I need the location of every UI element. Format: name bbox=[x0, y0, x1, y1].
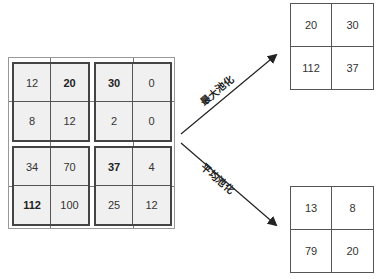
output-cell: 20 bbox=[291, 4, 332, 47]
output-cell: 13 bbox=[291, 187, 332, 230]
output-cell: 37 bbox=[332, 47, 373, 90]
output-cell: 79 bbox=[291, 230, 332, 273]
output-cell: 20 bbox=[332, 230, 373, 273]
max-pool-arrow bbox=[181, 55, 276, 134]
max-pool-label: 最大池化 bbox=[198, 73, 236, 108]
avg-pool-label: 平均池化 bbox=[199, 160, 237, 195]
output-cell: 8 bbox=[332, 187, 373, 230]
output-cell: 112 bbox=[291, 47, 332, 90]
max-pool-output: 20 30 112 37 bbox=[290, 3, 374, 90]
output-cell: 30 bbox=[332, 4, 373, 47]
avg-pool-output: 13 8 79 20 bbox=[290, 186, 374, 273]
